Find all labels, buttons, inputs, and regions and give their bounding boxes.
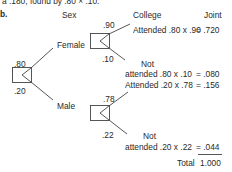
female-label: Female (57, 40, 85, 50)
male-not-joint: = .044 (196, 142, 219, 152)
prob-female-attended: .90 (103, 20, 115, 30)
female-not-joint: = .080 (196, 69, 219, 79)
header-joint: Joint (204, 10, 222, 20)
female-branch (31, 48, 53, 68)
male-branch (31, 82, 53, 100)
male-attended-line: Attended .20 x .78 (125, 80, 193, 90)
prob-female: .80 (14, 59, 26, 69)
male-not-line: attended .20 x .22 (125, 142, 192, 152)
total-value: 1.000 (200, 158, 221, 168)
previous-answer-line: a .180, found by .80 × .10. (2, 0, 99, 6)
female-attended-line: Attended .80 x .90 (133, 25, 201, 35)
male-attended-joint: = .156 (196, 80, 219, 90)
female-not-line: attended .80 x .10 (125, 69, 192, 79)
prob-male-not: .22 (102, 130, 114, 140)
prob-male-attended: .78 (103, 94, 115, 104)
male-label: Male (57, 101, 75, 111)
male-not-word: Not (143, 131, 156, 141)
total-label: Total (177, 158, 195, 168)
female-attended-joint: = .720 (196, 25, 219, 35)
part-label: b. (0, 9, 7, 19)
prob-female-not: .10 (102, 54, 114, 64)
header-sex: Sex (62, 10, 76, 20)
header-college: College (133, 10, 161, 20)
prob-male: .20 (14, 86, 26, 96)
